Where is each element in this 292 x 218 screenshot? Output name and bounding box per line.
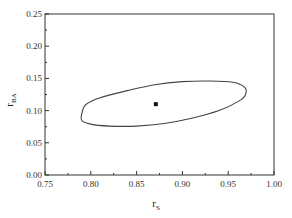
x-tick-label: 0.75 [37,179,53,189]
y-tick-label: 0.25 [26,9,42,19]
plot-frame [45,14,274,175]
x-tick-label: 1.00 [266,179,282,189]
confidence-contour [81,81,246,126]
x-axis-ticks: 0.750.800.850.900.951.00 [37,171,282,189]
plot-border [45,14,274,175]
y-tick-label: 0.20 [26,41,42,51]
series-layer [81,81,246,126]
y-tick-label: 0.00 [26,170,42,180]
point-estimate-marker [154,102,158,106]
x-tick-label: 0.80 [83,179,99,189]
x-tick-label: 0.85 [129,179,145,189]
chart: 0.750.800.850.900.951.00 0.000.050.100.1… [0,0,292,218]
y-axis-label: rBA [3,93,18,106]
y-tick-label: 0.15 [26,73,42,83]
y-axis-ticks: 0.000.050.100.150.200.25 [26,9,49,180]
x-tick-label: 0.95 [220,179,236,189]
y-tick-label: 0.05 [26,138,42,148]
y-tick-label: 0.10 [26,106,42,116]
x-axis-label: rS [152,197,160,212]
x-tick-label: 0.90 [175,179,191,189]
